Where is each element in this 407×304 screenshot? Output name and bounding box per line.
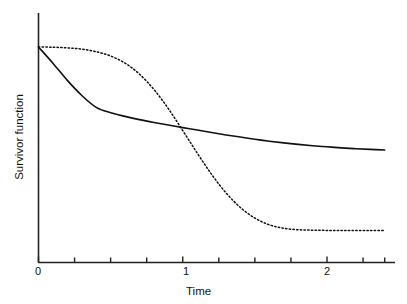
x-tick-label-0: 0 xyxy=(28,265,48,277)
chart-canvas xyxy=(0,0,407,304)
y-axis-title: Survivor function xyxy=(13,87,25,187)
series-group xyxy=(39,47,385,230)
x-axis-title: Time xyxy=(186,285,211,297)
dotted-survivor-curve xyxy=(39,47,385,230)
x-tick-label-2: 2 xyxy=(317,265,337,277)
solid-survivor-curve xyxy=(39,47,385,150)
x-axis-ticks xyxy=(39,257,385,263)
survivor-function-chart: 0 1 2 Time Survivor function xyxy=(0,0,407,304)
x-tick-label-1: 1 xyxy=(176,265,196,277)
